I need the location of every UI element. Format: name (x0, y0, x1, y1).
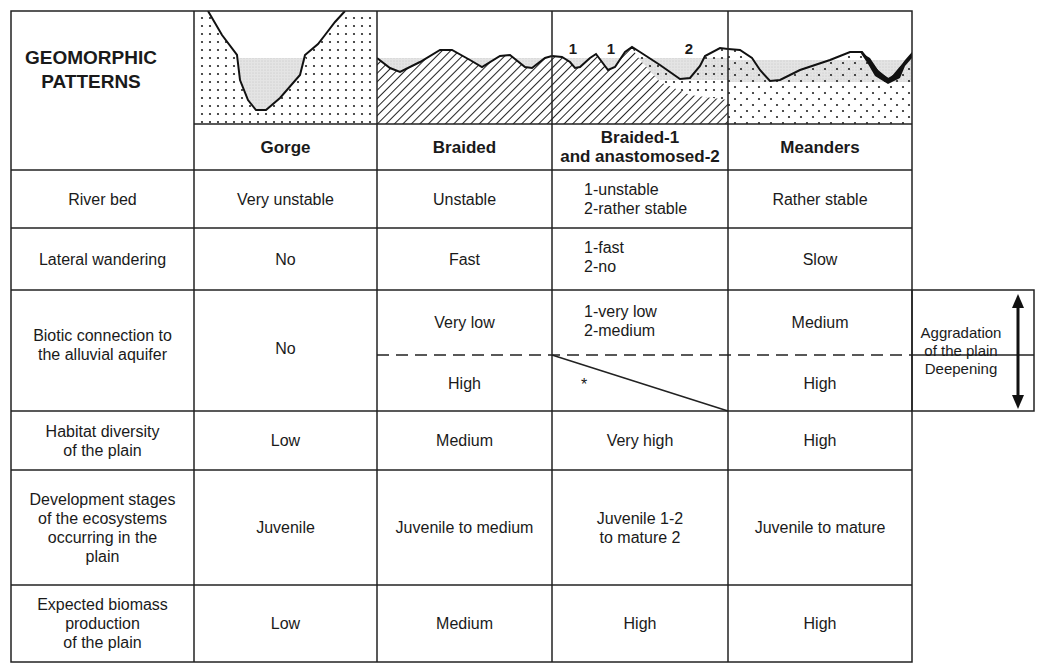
cell-development-gorge: Juvenile (194, 470, 377, 585)
cell-development-mixed: Juvenile 1-2 to mature 2 (552, 470, 728, 585)
column-header-braided: Braided (377, 124, 552, 170)
cell-biotic-meanders-top: Medium (728, 290, 912, 355)
cell-biotic-meanders-bottom: High (728, 355, 912, 411)
row-label-lateral-wandering: Lateral wandering (11, 228, 194, 290)
cell-biotic-mixed-top: 1-very low 2-medium (584, 290, 728, 352)
cell-biotic-mixed-asterisk: * (574, 374, 594, 394)
cell-river-bed-braided: Unstable (377, 170, 552, 228)
cell-biomass-gorge: Low (194, 585, 377, 662)
cell-biotic-braided-top: Very low (377, 290, 552, 355)
row-label-biotic-connection: Biotic connection to the alluvial aquife… (11, 290, 194, 411)
braid-label-1b: 1 (604, 38, 618, 58)
cell-biomass-braided: Medium (377, 585, 552, 662)
row-label-habitat-diversity: Habitat diversity of the plain (11, 411, 194, 470)
braided-anastomosed-diagram (552, 47, 728, 124)
cell-development-meanders: Juvenile to mature (728, 470, 912, 585)
cell-biotic-braided-bottom: High (377, 355, 552, 411)
side-note-aggradation-deepening: Aggradation of the plain Deepening (912, 318, 1010, 384)
gorge-diagram (195, 11, 377, 124)
cell-river-bed-meanders: Rather stable (728, 170, 912, 228)
braid-label-1a: 1 (566, 38, 580, 58)
cell-habitat-meanders: High (728, 411, 912, 470)
cell-lateral-mixed: 1-fast 2-no (584, 228, 728, 286)
double-vertical-arrow (1012, 294, 1024, 409)
cell-biotic-gorge: No (194, 290, 377, 411)
cell-lateral-gorge: No (194, 228, 377, 290)
column-header-braided-anastomosed: Braided-1 and anastomosed-2 (552, 124, 728, 170)
cell-river-bed-mixed: 1-unstable 2-rather stable (584, 170, 728, 228)
braided-diagram (377, 50, 552, 124)
column-header-gorge: Gorge (194, 124, 377, 170)
cell-biomass-meanders: High (728, 585, 912, 662)
cell-lateral-meanders: Slow (728, 228, 912, 290)
cell-lateral-braided: Fast (377, 228, 552, 290)
cell-biomass-mixed: High (552, 585, 728, 662)
row-label-expected-biomass: Expected biomass production of the plain (11, 585, 194, 662)
table-title: GEOMORPHIC PATTERNS (11, 42, 171, 98)
cell-river-bed-gorge: Very unstable (194, 170, 377, 228)
cell-habitat-mixed: Very high (552, 411, 728, 470)
column-header-meanders: Meanders (728, 124, 912, 170)
cell-development-braided: Juvenile to medium (377, 470, 552, 585)
cell-habitat-braided: Medium (377, 411, 552, 470)
row-label-development-stages: Development stages of the ecosystems occ… (11, 470, 194, 585)
meanders-diagram (728, 49, 912, 124)
row-label-river-bed: River bed (11, 170, 194, 228)
cell-habitat-gorge: Low (194, 411, 377, 470)
anastomosed-label-2: 2 (682, 38, 696, 58)
